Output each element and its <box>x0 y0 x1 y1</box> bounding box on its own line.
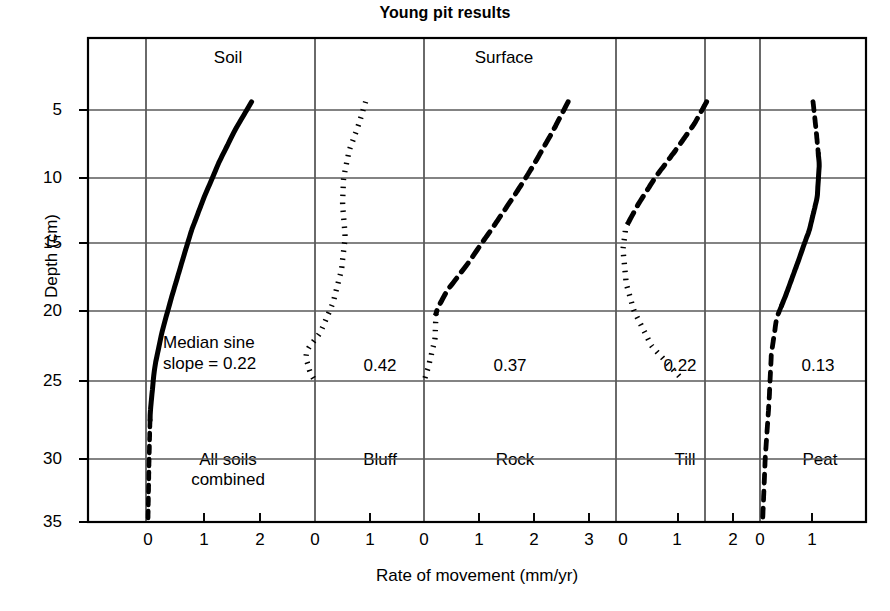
figure-container: Young pit results Depth (cm) Rate of mov… <box>0 0 890 611</box>
y-tick-marks-group <box>79 110 88 522</box>
data-curve-till-seg2 <box>623 224 683 382</box>
data-curve-rock-seg1 <box>436 102 568 314</box>
data-curve-all-soils-seg2 <box>148 420 150 522</box>
data-curve-till-seg1 <box>628 102 707 224</box>
gridlines-group <box>88 110 866 459</box>
x-tick-marks-group <box>148 513 812 522</box>
data-curve-peat-seg3 <box>763 306 782 522</box>
plot-area <box>0 0 890 611</box>
data-curve-rock-seg2 <box>424 314 436 381</box>
data-curve-peat-seg2 <box>782 154 820 306</box>
data-curve-all-soils-seg1 <box>150 102 252 420</box>
